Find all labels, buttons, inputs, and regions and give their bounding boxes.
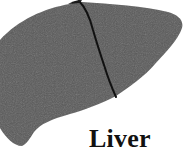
liver-illustration: Liver [0,0,184,166]
organ-label: Liver [89,125,151,153]
